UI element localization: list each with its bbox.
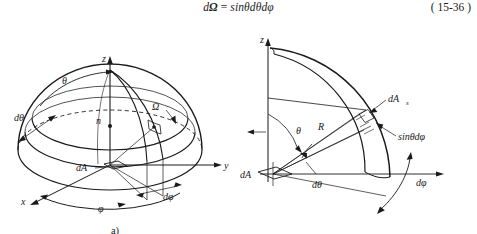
dphi-label: dφ <box>163 191 174 202</box>
meridian-arc-1 <box>110 70 147 162</box>
normal-label: n <box>96 115 101 126</box>
dA-label: dA <box>76 162 88 173</box>
axis-x-arrowhead <box>30 200 39 205</box>
dphi-label-b: dφ <box>416 177 427 188</box>
axis-horizontal-arrowhead-b <box>436 171 444 176</box>
equation-number: ( 15-36 ) <box>431 1 471 13</box>
dtheta-label: dθ <box>14 112 24 123</box>
axis-x-label: x <box>20 196 26 207</box>
phi-ray-2 <box>110 165 163 196</box>
theta-arc-arrowhead-b <box>295 145 302 153</box>
dAs-label-sub: s <box>406 99 409 107</box>
dphi-arrow-right <box>174 182 182 187</box>
phi-label: φ <box>98 203 104 214</box>
figure-a-canvas: z y x dA n <box>0 22 240 234</box>
omega-label: Ω <box>152 101 159 112</box>
dtheta-leader <box>22 118 52 139</box>
theta-arc <box>40 72 108 106</box>
normal-point-dot <box>108 124 112 128</box>
phi-arc-arrow-mid <box>118 203 127 208</box>
upper-chord-line <box>268 98 366 110</box>
lune-bottom-cap <box>365 172 390 178</box>
dtheta-label-b: dθ <box>312 179 322 190</box>
figure-b-lune: z dA s <box>240 22 477 234</box>
dtheta-arrowhead-b <box>300 153 307 159</box>
theta-label: θ <box>62 75 67 86</box>
axis-x-line <box>36 165 110 202</box>
dphi-arc-arrow-bottom <box>377 207 385 214</box>
dA-label-b: dA <box>240 169 252 180</box>
ray-R-lower-inner <box>273 130 364 174</box>
dAs-label-main: dA <box>388 93 400 104</box>
axis-y-arrowhead <box>214 162 222 167</box>
axis-z-arrowhead-b <box>265 38 271 46</box>
sector-inner-arc <box>274 54 365 172</box>
axis-z-label: z <box>101 53 106 64</box>
equation-expression: dΩ = sinθdθdφ <box>0 1 477 13</box>
phi-arc <box>44 193 180 209</box>
ray-R-upper-inner <box>273 114 359 174</box>
dtheta-leader-b <box>306 162 316 174</box>
figure-b-canvas: z dA s <box>240 22 477 234</box>
figure-a-caption: a) <box>95 225 135 234</box>
lower-ray-b <box>273 174 386 196</box>
axis-z-label-b: z <box>259 34 264 45</box>
dAs-leader <box>373 100 386 110</box>
equation-omega: Ω <box>209 1 218 13</box>
sin-theta-dphi-label: sinθdφ <box>398 131 426 142</box>
equation-rhs: sinθdθdφ <box>230 1 273 13</box>
dphi-arc-arrow-top <box>407 152 413 160</box>
axis-y-label: y <box>223 160 229 171</box>
band-hatch-2 <box>360 122 369 127</box>
equation-equals: = <box>221 1 228 13</box>
meridian-arc-2 <box>110 70 163 159</box>
theta-arc-b <box>268 114 298 149</box>
solid-angle-point-dot <box>152 125 156 129</box>
theta-label-b: θ <box>296 125 301 136</box>
axis-z-arrowhead <box>107 56 113 64</box>
equation-row: dΩ = sinθdθdφ ( 15-36 ) <box>0 0 477 22</box>
theta-leader-arrowhead <box>247 130 254 135</box>
radius-label: R <box>317 121 324 132</box>
figure-page: dΩ = sinθdθdφ ( 15-36 ) <box>0 0 477 234</box>
band-hatch-3 <box>364 129 374 134</box>
dphi-arc-b <box>380 158 410 210</box>
figure-a-hemisphere: z y x dA n <box>0 22 240 234</box>
